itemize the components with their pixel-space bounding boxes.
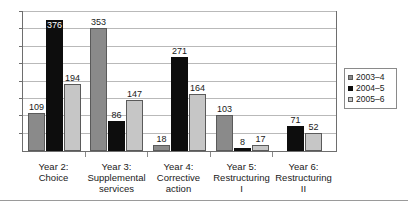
- legend-swatch-icon: [348, 75, 353, 80]
- bar-column[interactable]: 109: [28, 12, 45, 151]
- bar[interactable]: [126, 100, 143, 151]
- bar[interactable]: [64, 84, 81, 151]
- bar[interactable]: [252, 145, 269, 151]
- bar-value-label: 18: [156, 135, 166, 144]
- bar-column[interactable]: 52: [305, 12, 322, 151]
- bar-value-label: 52: [308, 123, 318, 132]
- bar-column[interactable]: 194: [64, 12, 81, 151]
- bar-column[interactable]: 376: [46, 12, 63, 151]
- bar-column[interactable]: 71: [287, 12, 304, 151]
- x-axis-label-line: II: [272, 183, 335, 194]
- bar[interactable]: [153, 145, 170, 151]
- plot-area: 10937619435386147182711641038177152: [22, 11, 337, 152]
- x-axis-tick: [210, 152, 211, 157]
- x-axis-category-labels: Year 2:ChoiceYear 3:Supplementalservices…: [22, 157, 337, 203]
- bar-column[interactable]: 86: [108, 12, 125, 151]
- x-axis-label: Year 4:Correctiveaction: [147, 161, 210, 194]
- x-axis-tick: [272, 152, 273, 157]
- bar[interactable]: [28, 113, 45, 151]
- bar-value-label: 109: [29, 103, 44, 112]
- bar[interactable]: [171, 57, 188, 151]
- bar[interactable]: [287, 126, 304, 151]
- bar-column[interactable]: 164: [189, 12, 206, 151]
- bar-group: 103817: [216, 12, 269, 151]
- x-axis-tick: [85, 152, 86, 157]
- bar-value-label: 17: [255, 135, 265, 144]
- legend-item[interactable]: 2004–5: [348, 83, 393, 94]
- x-axis-label: Year 5:RestructuringI: [210, 161, 273, 194]
- x-axis-label-line: Restructuring: [272, 172, 335, 183]
- bar-value-label: 353: [91, 18, 106, 27]
- legend-item[interactable]: 2005–6: [348, 94, 393, 105]
- bar[interactable]: [189, 94, 206, 151]
- legend-item-label: 2003–4: [356, 72, 384, 83]
- x-axis-label: Year 6:RestructuringII: [272, 161, 335, 194]
- bar-group: 35386147: [90, 12, 143, 151]
- x-axis-label-line: I: [210, 183, 273, 194]
- legend-item[interactable]: 2003–4: [348, 72, 393, 83]
- bar-chart-figure: 10937619435386147182711641038177152 Year…: [0, 0, 408, 210]
- legend-swatch-icon: [348, 86, 353, 91]
- bar-value-label: 271: [172, 47, 187, 56]
- legend-item-label: 2005–6: [356, 94, 384, 105]
- x-axis-label-line: Year 5:: [210, 161, 273, 172]
- x-axis-label-line: Corrective: [147, 172, 210, 183]
- x-axis-label-line: Supplemental: [85, 172, 148, 183]
- x-axis-label-line: Year 3:: [85, 161, 148, 172]
- bottom-divider: [0, 200, 408, 201]
- legend-swatch-icon: [348, 97, 353, 102]
- bar-value-label: 103: [217, 105, 232, 114]
- x-axis-label: Year 3:Supplementalservices: [85, 161, 148, 194]
- x-axis-label-line: Year 4:: [147, 161, 210, 172]
- legend-item-label: 2004–5: [356, 83, 384, 94]
- bar[interactable]: [108, 121, 125, 151]
- bar[interactable]: [46, 20, 63, 151]
- bar-column[interactable]: 103: [216, 12, 233, 151]
- bar-value-label: 376: [47, 21, 62, 30]
- bar-value-label: 8: [240, 138, 245, 147]
- x-axis-tick: [147, 152, 148, 157]
- bar-group: 18271164: [153, 12, 206, 151]
- x-axis-label-line: action: [147, 183, 210, 194]
- bar-column[interactable]: 271: [171, 12, 188, 151]
- bar-group: 7152: [287, 12, 322, 151]
- bar[interactable]: [216, 115, 233, 151]
- bar-value-label: 147: [127, 90, 142, 99]
- bar-group: 109376194: [28, 12, 81, 151]
- bar-column[interactable]: 8: [234, 12, 251, 151]
- chart-legend: 2003–42004–52005–6: [344, 68, 397, 109]
- x-axis-label-line: services: [85, 183, 148, 194]
- bar-value-label: 86: [111, 111, 121, 120]
- bar-column[interactable]: 18: [153, 12, 170, 151]
- bar-column[interactable]: 17: [252, 12, 269, 151]
- x-axis-label-line: Restructuring: [210, 172, 273, 183]
- x-axis-label-line: Year 2:: [22, 161, 85, 172]
- bar[interactable]: [90, 28, 107, 151]
- bar-value-label: 71: [290, 116, 300, 125]
- bar-column[interactable]: 147: [126, 12, 143, 151]
- bar-value-label: 194: [65, 74, 80, 83]
- bar[interactable]: [234, 148, 251, 151]
- bar-value-label: 164: [190, 84, 205, 93]
- x-axis-label-line: Choice: [22, 172, 85, 183]
- x-axis-label-line: Year 6:: [272, 161, 335, 172]
- bar-column[interactable]: 353: [90, 12, 107, 151]
- x-axis-label: Year 2:Choice: [22, 161, 85, 183]
- bar-series-container: 10937619435386147182711641038177152: [23, 12, 336, 151]
- bar[interactable]: [305, 133, 322, 151]
